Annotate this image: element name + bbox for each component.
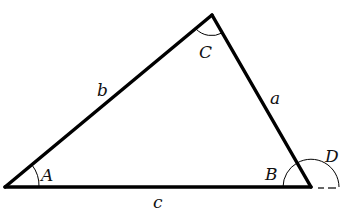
vertex-label-a: A [39,165,53,185]
angle-b-arc [283,163,297,187]
triangle-diagram: A B C D a b c [0,0,341,215]
side-label-c: c [153,192,163,212]
exterior-angle-label-d: D [324,146,339,166]
side-label-b: b [97,80,108,100]
angle-c-arc [196,29,222,36]
vertex-label-b: B [264,164,278,184]
angle-a-arc [32,165,39,187]
side-label-a: a [270,88,280,108]
side-a [212,15,311,187]
side-b [5,15,212,187]
vertex-label-c: C [199,42,212,62]
